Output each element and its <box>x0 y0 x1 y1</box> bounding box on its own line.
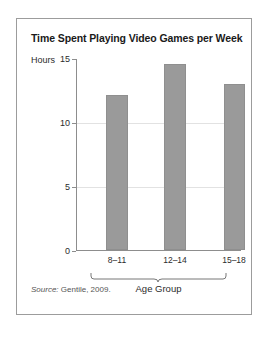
gridline <box>77 187 241 188</box>
x-tick-label-15-18: 15–18 <box>222 255 246 265</box>
x-axis-line <box>76 250 241 251</box>
y-axis-line <box>76 59 77 251</box>
y-tick-label: 5 <box>65 183 70 192</box>
gridline <box>77 123 241 124</box>
y-tick-label: 10 <box>60 119 70 128</box>
source-note: Source: Gentile, 2009. <box>31 285 111 294</box>
bar-15-18 <box>224 84 245 250</box>
x-tick-label-12-14: 12–14 <box>163 255 187 265</box>
bar-12-14 <box>164 64 186 250</box>
figure-card: Time Spent Playing Video Games per Week … <box>16 18 252 315</box>
y-tick-label: 15 <box>60 55 70 64</box>
tick-mark <box>72 59 76 60</box>
y-axis-label: Hours <box>31 55 55 65</box>
x-tick-label-8-11: 8–11 <box>108 255 126 265</box>
bar-8-11 <box>106 95 128 250</box>
plot-area: 15 10 5 0 8–11 12–14 15–18 Age Group <box>76 59 241 251</box>
chart-title: Time Spent Playing Video Games per Week <box>31 32 242 44</box>
source-citation: Gentile, 2009. <box>61 285 111 294</box>
tick-mark <box>72 187 76 188</box>
y-tick-label: 0 <box>65 247 70 256</box>
age-group-bracket-icon <box>90 273 227 282</box>
tick-mark <box>72 251 76 252</box>
tick-mark <box>72 123 76 124</box>
source-prefix: Source: <box>31 285 59 294</box>
